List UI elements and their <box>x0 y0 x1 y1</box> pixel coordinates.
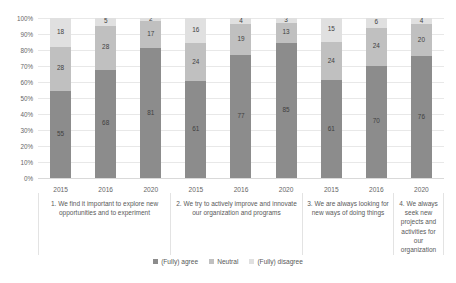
bar-segment-value: 6 <box>375 19 379 25</box>
bar-segment-value: 5 <box>104 18 108 24</box>
year-label-group: 201520162020 <box>173 180 308 193</box>
bar-segment-agree[interactable]: 85 <box>276 43 297 178</box>
y-axis-tick-label: 20% <box>20 143 33 150</box>
x-axis-year-label: 2016 <box>218 186 263 193</box>
bar-segment-agree[interactable]: 77 <box>230 55 251 178</box>
bar-segment-value: 24 <box>192 59 199 65</box>
bar-slot: 21781 <box>128 18 173 178</box>
year-label-slot: 2020 <box>128 180 173 193</box>
x-axis-year-label: 2015 <box>309 186 354 193</box>
category-caption-text: 3. We are always looking for new ways of… <box>307 199 389 255</box>
year-label-slot: 2020 <box>399 180 444 193</box>
bar-segment-neutral[interactable]: 13 <box>276 23 297 44</box>
bar-slot: 42076 <box>399 18 444 178</box>
year-label-slot: 2020 <box>264 180 309 193</box>
legend-item[interactable]: Neutral <box>209 258 238 265</box>
bar-segment-disagree[interactable]: 16 <box>185 18 206 43</box>
legend-item[interactable]: (Fully) agree <box>153 258 198 265</box>
category-caption-text: 1. We find it important to explore new o… <box>43 199 166 255</box>
x-axis-year-label: 2015 <box>173 186 218 193</box>
bar-segment-value: 4 <box>239 18 243 24</box>
x-axis-years: 201520162020201520162020201520162020 <box>38 180 444 193</box>
bar-segment-value: 61 <box>328 126 335 132</box>
stacked-bar[interactable]: 152461 <box>321 18 342 178</box>
bar-segment-value: 76 <box>418 114 425 120</box>
bar-slot: 31385 <box>264 18 309 178</box>
bar-segment-value: 61 <box>192 126 199 132</box>
y-axis-tick-label: 0% <box>24 175 33 182</box>
bar-segment-neutral[interactable]: 24 <box>185 43 206 81</box>
bar-segment-agree[interactable]: 61 <box>185 81 206 178</box>
y-axis-tick-label: 60% <box>20 79 33 86</box>
year-label-slot: 2015 <box>309 180 354 193</box>
bar-segment-neutral[interactable]: 28 <box>50 47 71 91</box>
bar-segment-agree[interactable]: 55 <box>50 91 71 178</box>
category-caption-text: 4. We always seek new projects and activ… <box>398 199 439 255</box>
bar-segment-value: 19 <box>237 36 244 42</box>
bar-segment-value: 17 <box>147 31 154 37</box>
bar-segment-agree[interactable]: 70 <box>366 66 387 178</box>
x-axis-year-label: 2015 <box>38 186 83 193</box>
category-caption: 4. We always seek new projects and activ… <box>394 193 444 255</box>
y-axis-tick-label: 30% <box>20 127 33 134</box>
bar-segment-disagree[interactable]: 5 <box>95 18 116 26</box>
y-axis-tick-label: 50% <box>20 95 33 102</box>
y-axis-tick-label: 80% <box>20 47 33 54</box>
plot-area: 1828555286821781162461419773138515246162… <box>38 18 444 178</box>
stacked-bar[interactable]: 162461 <box>185 18 206 178</box>
year-label-slot: 2015 <box>173 180 218 193</box>
bar-segment-neutral[interactable]: 24 <box>321 42 342 80</box>
bar-segment-value: 24 <box>373 43 380 49</box>
bar-segment-neutral[interactable]: 17 <box>140 21 161 48</box>
bar-segment-neutral[interactable]: 20 <box>411 24 432 56</box>
bar-segment-value: 24 <box>328 58 335 64</box>
bar-segment-neutral[interactable]: 19 <box>230 24 251 54</box>
legend-item[interactable]: (Fully) disagree <box>249 258 302 265</box>
bar-segment-neutral[interactable]: 28 <box>95 26 116 70</box>
legend-label: (Fully) disagree <box>257 258 302 265</box>
bar-segment-value: 85 <box>283 107 290 113</box>
year-label-group: 20152016 <box>309 180 399 193</box>
bar-slot: 62470 <box>354 18 399 178</box>
legend-swatch-icon <box>209 259 214 264</box>
stacked-bar[interactable]: 21781 <box>140 18 161 178</box>
stacked-bar[interactable]: 31385 <box>276 18 297 178</box>
bar-segment-value: 4 <box>420 18 424 24</box>
y-axis-tick-label: 10% <box>20 159 33 166</box>
year-label-slot: 2016 <box>83 180 128 193</box>
bar-segment-value: 20 <box>418 37 425 43</box>
bar-groups: 1828555286821781162461419773138515246162… <box>38 18 444 178</box>
bar-segment-disagree[interactable]: 6 <box>366 18 387 28</box>
bar-slot: 162461 <box>173 18 218 178</box>
bar-segment-neutral[interactable]: 24 <box>366 28 387 66</box>
bar-slot: 182855 <box>38 18 83 178</box>
x-axis-year-label: 2016 <box>83 186 128 193</box>
bar-segment-value: 77 <box>237 113 244 119</box>
stacked-bar[interactable]: 42076 <box>411 18 432 178</box>
stacked-bar[interactable]: 41977 <box>230 18 251 178</box>
bar-segment-disagree[interactable]: 15 <box>321 18 342 42</box>
bar-segment-disagree[interactable]: 18 <box>50 18 71 47</box>
bar-segment-agree[interactable]: 61 <box>321 80 342 178</box>
x-axis-year-label: 2020 <box>264 186 309 193</box>
year-label-slot: 2015 <box>38 180 83 193</box>
x-axis-year-label: 2016 <box>354 186 399 193</box>
bar-segment-agree[interactable]: 81 <box>140 48 161 178</box>
bar-segment-value: 18 <box>57 29 64 35</box>
stacked-bar[interactable]: 52868 <box>95 18 116 178</box>
bar-segment-value: 81 <box>147 110 154 116</box>
bar-segment-agree[interactable]: 68 <box>95 70 116 178</box>
year-label-slot: 2016 <box>354 180 399 193</box>
stacked-bar[interactable]: 62470 <box>366 18 387 178</box>
y-axis-tick-label: 70% <box>20 63 33 70</box>
legend-swatch-icon <box>153 259 158 264</box>
stacked-bar[interactable]: 182855 <box>50 18 71 178</box>
x-axis-year-label: 2020 <box>128 186 173 193</box>
category-captions: 1. We find it important to explore new o… <box>38 193 444 255</box>
category-caption: 3. We are always looking for new ways of… <box>303 193 394 255</box>
x-axis-line <box>38 178 444 179</box>
stacked-bar-chart: 100%90%80%70%60%50%40%30%20%10%0% 182855… <box>0 0 456 283</box>
bar-group: 1624614197731385 <box>173 18 308 178</box>
bar-segment-agree[interactable]: 76 <box>411 56 432 178</box>
bar-segment-value: 3 <box>284 18 288 23</box>
